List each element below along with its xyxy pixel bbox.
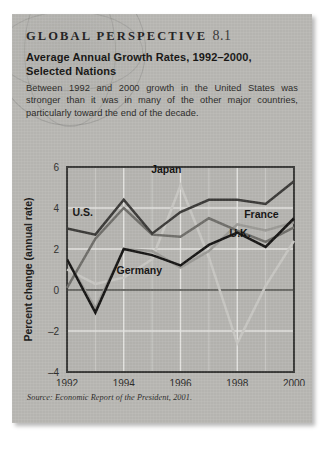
- ytick-label--2: –2: [48, 326, 60, 337]
- panel-kicker-text: GLOBAL PERSPECTIVE: [26, 29, 207, 43]
- series-label-japan: Japan: [151, 163, 181, 175]
- xtick-label-1992: 1992: [56, 378, 79, 386]
- xtick-label-1994: 1994: [113, 378, 136, 386]
- ytick-label-4: 4: [53, 203, 59, 214]
- ytick-label--4: –4: [48, 367, 60, 378]
- panel-number: 8.1: [212, 28, 231, 43]
- series-label-france: France: [244, 208, 279, 220]
- global-perspective-panel: GLOBAL PERSPECTIVE 8.1 Average Annual Gr…: [12, 14, 312, 423]
- chart-svg: U.S.JapanFranceU.K.Germany6420–2–4199219…: [12, 136, 312, 386]
- source-note: Source: Economic Report of the President…: [27, 393, 297, 402]
- xtick-label-1998: 1998: [226, 378, 249, 386]
- page-canvas: GLOBAL PERSPECTIVE 8.1 Average Annual Gr…: [0, 0, 324, 449]
- ytick-label-6: 6: [53, 162, 59, 173]
- line-chart: U.S.JapanFranceU.K.Germany6420–2–4199219…: [12, 136, 312, 386]
- ytick-label-0: 0: [53, 285, 59, 296]
- series-label-uk: U.K.: [230, 227, 251, 239]
- y-axis-title: Percent change (annual rate): [22, 197, 34, 341]
- panel-inner: GLOBAL PERSPECTIVE 8.1 Average Annual Gr…: [12, 14, 312, 423]
- panel-kicker: GLOBAL PERSPECTIVE 8.1: [26, 28, 298, 44]
- series-label-germany: Germany: [117, 264, 163, 276]
- series-label-us: U.S.: [72, 206, 93, 218]
- panel-title: Average Annual Growth Rates, 1992–2000, …: [26, 50, 294, 78]
- xtick-label-2000: 2000: [283, 378, 306, 386]
- panel-body-text: Between 1992 and 2000 growth in the Unit…: [26, 82, 298, 119]
- ytick-label-2: 2: [53, 244, 59, 255]
- xtick-label-1996: 1996: [169, 378, 192, 386]
